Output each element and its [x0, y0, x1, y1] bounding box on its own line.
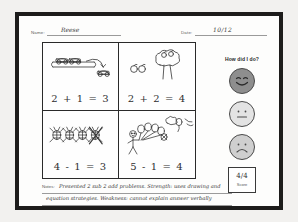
page-frame: Name: Reese Date: 10/12: [15, 12, 283, 210]
name-label: Name:: [31, 30, 45, 35]
problem-grid: 2 + 1 = 3: [42, 42, 196, 179]
name-field[interactable]: [47, 26, 121, 36]
score-value: 4/4: [236, 173, 247, 180]
four-bugs-drawing: [43, 119, 118, 155]
equation-4: 5 - 1 = 4: [119, 161, 195, 172]
score-box[interactable]: 4/4 Score: [228, 167, 256, 193]
scanned-worksheet-photo: Name: Reese Date: 10/12: [0, 0, 298, 222]
equation-2: 2 + 2 = 4: [119, 93, 195, 104]
problem-cell-4[interactable]: 5 - 1 = 4: [119, 111, 195, 179]
problem-cell-2[interactable]: 2 + 2 = 4: [119, 43, 195, 111]
cars-on-road-drawing: [43, 45, 118, 87]
notes-line-2[interactable]: equation strategies. Weakness: cannot ex…: [42, 194, 232, 206]
problem-cell-3[interactable]: 4 - 1 = 3: [43, 111, 119, 179]
equation-1: 2 + 1 = 3: [43, 93, 118, 104]
name-value: Reese: [61, 26, 79, 33]
worksheet-page: Name: Reese Date: 10/12: [19, 16, 279, 206]
score-label: Score: [237, 182, 247, 187]
notes-section: Notes: Presented 2 sub 2 add problems. S…: [42, 182, 232, 206]
worksheet-header: Name: Reese Date: 10/12: [19, 26, 279, 40]
date-value: 10/12: [213, 26, 232, 33]
balloons-drawing: [119, 112, 195, 158]
notes-label: Notes:: [42, 184, 55, 189]
notes-line-1[interactable]: Notes: Presented 2 sub 2 add problems. S…: [42, 182, 232, 194]
apples-and-tree-drawing: [119, 45, 195, 87]
rating-panel: How did I do?: [207, 56, 277, 193]
notes-line-2-text: equation strategies. Weakness: cannot ex…: [46, 195, 212, 201]
equation-3: 4 - 1 = 3: [43, 161, 118, 172]
rating-panel-title: How did I do?: [207, 56, 277, 62]
notes-line-1-text: Presented 2 sub 2 add problems. Strength…: [59, 183, 220, 189]
problem-cell-1[interactable]: 2 + 1 = 3: [43, 43, 119, 111]
date-label: Date:: [181, 30, 193, 35]
sad-face-icon[interactable]: [229, 134, 255, 160]
neutral-face-icon[interactable]: [229, 101, 255, 127]
happy-face-icon[interactable]: [229, 68, 255, 94]
